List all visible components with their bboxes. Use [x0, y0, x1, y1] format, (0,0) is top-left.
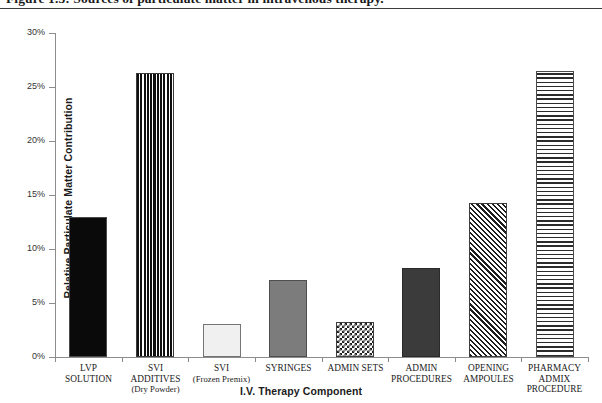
category-label-line: PROCEDURES	[388, 374, 455, 385]
bar-pharmacy	[536, 71, 574, 357]
y-axis-tick-label: 20%	[0, 135, 45, 145]
category-label-line: ADMIN	[406, 363, 438, 373]
y-axis-tick-label: 5%	[0, 297, 45, 307]
y-axis-tick-label: 25%	[0, 81, 45, 91]
x-axis-tick	[388, 357, 389, 362]
x-axis-category-label: ADMINPROCEDURES	[388, 363, 455, 384]
x-axis-tick	[588, 357, 589, 362]
x-axis-tick	[188, 357, 189, 362]
x-axis-category-label: SVIADDITIVES(Dry Powder)	[122, 363, 189, 395]
x-axis-title: I.V. Therapy Component	[0, 385, 602, 397]
bar-lvp	[69, 217, 107, 357]
category-label-line: SYRINGES	[266, 363, 312, 373]
y-axis-tick	[49, 33, 56, 34]
category-label-line: ADMIN SETS	[327, 363, 383, 373]
bar-syringes	[269, 280, 307, 357]
category-label-line: AMPOULES	[455, 374, 522, 385]
x-axis-category-label: OPENINGAMPOULES	[455, 363, 522, 384]
x-axis-category-label: LVPSOLUTION	[55, 363, 122, 384]
y-axis-tick	[49, 141, 56, 142]
y-axis-tick	[49, 195, 56, 196]
x-axis-tick	[322, 357, 323, 362]
x-axis-category-label: SVI(Frozen Premix)	[188, 363, 255, 384]
category-label-line: LVP	[80, 363, 97, 373]
category-label-line: (Frozen Premix)	[188, 374, 255, 385]
y-axis-tick-label: 10%	[0, 243, 45, 253]
x-axis-tick	[255, 357, 256, 362]
category-label-line: SOLUTION	[55, 374, 122, 385]
y-axis-tick-label: 15%	[0, 189, 45, 199]
bar-admin-sets	[336, 322, 374, 357]
category-label-line: ADMIX	[521, 374, 588, 385]
category-label-line: (Dry Powder)	[122, 384, 189, 395]
x-axis-category-label: SYRINGES	[255, 363, 322, 374]
bar-svi	[136, 73, 174, 357]
x-axis-category-label: PHARMACYADMIXPROCEDURE	[521, 363, 588, 395]
y-axis-tick	[49, 249, 56, 250]
category-label-line: PHARMACY	[528, 363, 581, 373]
bar-svi	[203, 324, 241, 357]
bar-chart: Relative Particulate Matter Contribution…	[0, 0, 602, 403]
category-label-line: ADDITIVES	[122, 374, 189, 385]
category-label-line: SVI	[214, 363, 229, 373]
y-axis-tick	[49, 303, 56, 304]
y-axis-tick-label: 0%	[0, 351, 45, 361]
x-axis-tick	[55, 357, 56, 362]
x-axis-tick	[122, 357, 123, 362]
y-axis-tick	[49, 87, 56, 88]
x-axis-tick	[455, 357, 456, 362]
bar-admin	[402, 268, 440, 357]
category-label-line: PROCEDURE	[521, 384, 588, 395]
category-label-line: OPENING	[468, 363, 509, 373]
y-axis-tick-label: 30%	[0, 27, 45, 37]
category-label-line: SVI	[148, 363, 163, 373]
bar-opening	[469, 203, 507, 357]
x-axis-tick	[521, 357, 522, 362]
x-axis-category-label: ADMIN SETS	[322, 363, 389, 374]
